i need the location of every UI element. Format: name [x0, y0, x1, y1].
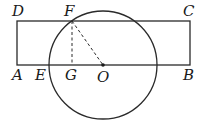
label-c: C	[183, 2, 195, 20]
label-o: O	[97, 68, 109, 86]
label-e: E	[34, 66, 46, 84]
segment-fo	[72, 21, 103, 65]
point-o	[101, 63, 105, 67]
label-a: A	[10, 66, 23, 84]
label-b: B	[182, 66, 194, 84]
geometry-diagram: D F C A E G O B	[0, 0, 203, 131]
label-f: F	[63, 2, 75, 20]
label-d: D	[11, 2, 24, 20]
rectangle-abcd	[17, 21, 190, 65]
label-g: G	[65, 66, 77, 84]
